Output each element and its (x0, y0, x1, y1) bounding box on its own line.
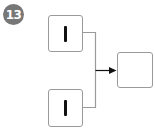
connector-lines (83, 33, 96, 108)
merge-connector (0, 0, 155, 132)
arrow-head-icon (109, 67, 117, 74)
